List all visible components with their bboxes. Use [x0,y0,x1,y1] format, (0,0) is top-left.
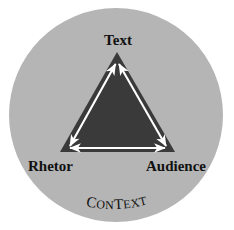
context-letter-3: N [105,198,114,212]
label-audience: Audience [146,158,206,174]
figure-canvas: Text Rhetor Audience CONTEXT [0,0,234,230]
rhetorical-triangle-figure: Text Rhetor Audience CONTEXT [0,0,234,230]
label-rhetor: Rhetor [28,158,73,174]
context-letter-4: T [113,196,123,213]
context-letter-2: O [96,197,106,212]
label-text: Text [104,32,132,48]
